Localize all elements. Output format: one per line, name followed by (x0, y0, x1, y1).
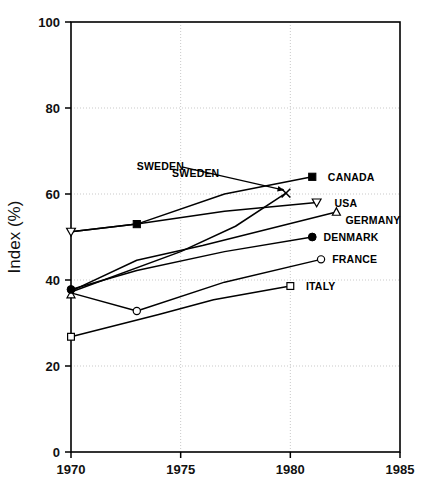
chart-canvas: 020406080100 1970197519801985 CANADASWED… (0, 0, 423, 487)
y-tick-label: 100 (38, 15, 60, 30)
x-tick-label: 1975 (166, 462, 195, 477)
series-label-denmark: DENMARK (323, 231, 378, 243)
marker-italy (287, 283, 294, 290)
marker-france (317, 256, 324, 263)
y-tick-label: 60 (46, 187, 60, 202)
annotation-label-sweden: SWEDEN (137, 160, 184, 172)
series-label-usa: USA (334, 197, 357, 209)
x-tick-label: 1985 (386, 462, 415, 477)
x-tick-label: 1980 (276, 462, 305, 477)
y-tick-label: 20 (46, 359, 60, 374)
marker-denmark-1970 (67, 286, 75, 294)
y-axis-title: Index (%) (5, 201, 24, 274)
series-label-france: FRANCE (332, 253, 377, 265)
line-chart: 020406080100 1970197519801985 CANADASWED… (0, 0, 423, 487)
y-tick-label: 80 (46, 101, 60, 116)
series-label-germany: GERMANY (345, 214, 400, 226)
marker-canada-1973 (133, 221, 140, 228)
series-label-italy: ITALY (306, 280, 336, 292)
y-tick-label: 40 (46, 273, 60, 288)
marker-denmark (308, 233, 316, 241)
marker-france-1973 (133, 307, 140, 314)
marker-italy-1970 (68, 333, 75, 340)
x-tick-label: 1970 (57, 462, 86, 477)
series-label-canada: CANADA (328, 171, 375, 183)
y-tick-label: 0 (53, 445, 60, 460)
marker-canada (309, 173, 316, 180)
